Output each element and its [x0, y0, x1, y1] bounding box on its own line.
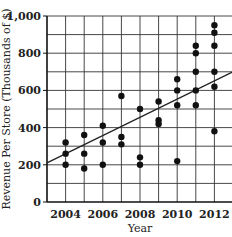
- data-point: [211, 43, 217, 49]
- data-point: [155, 98, 161, 104]
- data-point: [118, 134, 124, 140]
- data-point: [211, 83, 217, 89]
- data-point: [100, 162, 106, 168]
- data-point: [211, 69, 217, 75]
- data-point: [211, 30, 217, 36]
- data-point: [81, 165, 87, 171]
- data-point: [81, 132, 87, 138]
- y-tick-label: 800: [18, 47, 41, 60]
- data-point: [81, 150, 87, 156]
- data-point: [62, 162, 68, 168]
- data-point: [118, 93, 124, 99]
- y-tick-label: 400: [18, 122, 41, 135]
- x-tick-label: 2006: [87, 208, 118, 221]
- data-point: [155, 121, 161, 127]
- y-axis-label: Revenue Per Store (Thousands of $): [0, 8, 13, 209]
- data-point: [174, 102, 180, 108]
- data-point: [118, 141, 124, 147]
- data-point: [137, 154, 143, 160]
- y-tick-label: 600: [18, 84, 41, 97]
- data-point: [211, 22, 217, 28]
- x-tick-label: 2004: [50, 208, 81, 221]
- data-point: [193, 102, 199, 108]
- data-point: [100, 139, 106, 145]
- data-point: [193, 50, 199, 56]
- data-point: [62, 150, 68, 156]
- data-point: [137, 162, 143, 168]
- x-tick-label: 2008: [125, 208, 156, 221]
- data-point: [100, 123, 106, 129]
- data-point: [174, 158, 180, 164]
- y-tick-label: 200: [18, 159, 41, 172]
- y-tick-label: 0: [33, 196, 41, 209]
- trend-line: [47, 72, 232, 163]
- x-axis-ticks: 20042006200820102012: [50, 208, 229, 221]
- x-axis-label: Year: [127, 222, 153, 235]
- data-point: [193, 69, 199, 75]
- data-point: [174, 87, 180, 93]
- data-point: [174, 76, 180, 82]
- data-point: [193, 43, 199, 49]
- data-point: [137, 106, 143, 112]
- data-point: [193, 87, 199, 93]
- data-point: [211, 128, 217, 134]
- x-tick-label: 2012: [199, 208, 230, 221]
- data-point: [62, 139, 68, 145]
- x-tick-label: 2010: [162, 208, 193, 221]
- scatter-chart: 02004006008001,000 20042006200820102012 …: [0, 0, 232, 237]
